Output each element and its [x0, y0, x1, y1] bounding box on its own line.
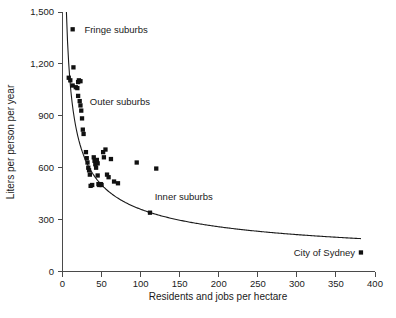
data-point: [78, 103, 82, 107]
data-point: [84, 150, 88, 154]
scatter-chart: 03006009001,2001,500 0501001502002503003…: [0, 0, 396, 318]
data-point: [68, 78, 72, 82]
data-point: [96, 161, 100, 165]
x-axis-title: Residents and jobs per hectare: [149, 291, 288, 302]
y-axis-ticks: 03006009001,2001,500: [30, 6, 62, 277]
y-tick-label: 0: [49, 266, 54, 277]
y-axis-title: Liters per person per year: [5, 84, 16, 199]
x-tick-label: 250: [250, 278, 266, 289]
x-tick-label: 350: [328, 278, 344, 289]
data-point: [102, 155, 106, 159]
axes-group: [63, 12, 376, 272]
data-point: [81, 132, 85, 136]
data-point: [78, 99, 82, 103]
data-point: [78, 79, 82, 83]
data-point: [71, 65, 75, 69]
data-point: [85, 160, 89, 164]
x-tick-label: 300: [289, 278, 305, 289]
x-tick-label: 50: [96, 278, 107, 289]
x-tick-label: 150: [172, 278, 188, 289]
chart-plot-area: 03006009001,2001,500 0501001502002503003…: [0, 0, 396, 318]
data-point: [106, 175, 110, 179]
data-point: [116, 181, 120, 185]
data-point: [109, 157, 113, 161]
trend-curve: [66, 12, 361, 239]
annotation-label-city-of-sydney: City of Sydney: [294, 247, 355, 258]
y-tick-label: 900: [38, 110, 54, 121]
data-point: [80, 116, 84, 120]
annotation-label-inner-suburbs: Inner suburbs: [155, 191, 213, 202]
y-tick-label: 600: [38, 162, 54, 173]
data-point: [87, 168, 91, 172]
data-point: [99, 183, 103, 187]
data-point-group: [67, 65, 159, 215]
data-point: [148, 211, 152, 215]
data-point: [79, 108, 83, 112]
annotation-label-outer-suburbs: Outer suburbs: [90, 96, 150, 107]
y-tick-label: 1,500: [30, 6, 54, 17]
y-tick-label: 1,200: [30, 58, 54, 69]
data-point: [94, 166, 98, 170]
data-point: [135, 160, 139, 164]
data-point: [112, 179, 116, 183]
data-point: [85, 156, 89, 160]
x-tick-label: 400: [367, 278, 383, 289]
data-point: [76, 94, 80, 98]
data-point: [96, 173, 100, 177]
data-point: [90, 183, 94, 187]
data-point: [81, 127, 85, 131]
x-tick-label: 200: [211, 278, 227, 289]
data-point: [154, 166, 158, 170]
x-tick-label: 0: [60, 278, 65, 289]
data-point: [88, 172, 92, 176]
annotation-marker-city-of-sydney: [359, 250, 363, 254]
data-point: [103, 147, 107, 151]
x-tick-label: 100: [133, 278, 149, 289]
annotation-group: Fringe suburbsOuter suburbsInner suburbs…: [71, 24, 364, 258]
data-point: [75, 86, 79, 90]
annotation-label-fringe-suburbs: Fringe suburbs: [84, 24, 148, 35]
annotation-marker-fringe-suburbs: [71, 27, 75, 31]
y-tick-label: 300: [38, 214, 54, 225]
x-axis-ticks: 050100150200250300350400: [60, 272, 383, 290]
